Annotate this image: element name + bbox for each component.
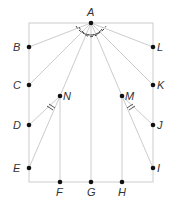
label-b: B xyxy=(13,41,20,53)
label-m: M xyxy=(125,90,135,102)
label-h: H xyxy=(118,186,126,198)
point-a xyxy=(89,21,94,26)
label-g: G xyxy=(87,186,96,198)
point-k xyxy=(151,83,156,88)
label-n: N xyxy=(63,90,71,102)
point-m xyxy=(120,94,125,99)
label-f: F xyxy=(56,186,64,198)
point-d xyxy=(27,123,32,128)
point-j xyxy=(151,123,156,128)
segments xyxy=(29,23,153,182)
angle-marks-m xyxy=(127,104,135,110)
label-e: E xyxy=(13,162,21,174)
point-e xyxy=(27,166,32,171)
label-j: J xyxy=(156,119,163,131)
point-c xyxy=(27,83,32,88)
label-a: A xyxy=(86,6,94,18)
point-f xyxy=(58,180,63,185)
point-h xyxy=(120,180,125,185)
point-n xyxy=(58,94,63,99)
point-l xyxy=(151,45,156,50)
segment-ac xyxy=(29,23,91,85)
geometry-diagram: ABCDEFGHIJKLMN xyxy=(0,0,175,213)
point-i xyxy=(151,166,156,171)
segment-al xyxy=(91,23,153,47)
segment-ab xyxy=(29,23,91,47)
segment-ak xyxy=(91,23,153,85)
label-i: I xyxy=(157,162,160,174)
segment-ne xyxy=(29,96,60,168)
segment-mi xyxy=(122,96,153,168)
label-d: D xyxy=(13,119,21,131)
point-g xyxy=(89,180,94,185)
point-b xyxy=(27,45,32,50)
segment-am xyxy=(91,23,122,96)
label-k: K xyxy=(157,79,165,91)
label-l: L xyxy=(157,41,163,53)
segment-nd xyxy=(29,96,60,125)
label-c: C xyxy=(13,79,21,91)
angle-marks-n xyxy=(47,104,55,110)
